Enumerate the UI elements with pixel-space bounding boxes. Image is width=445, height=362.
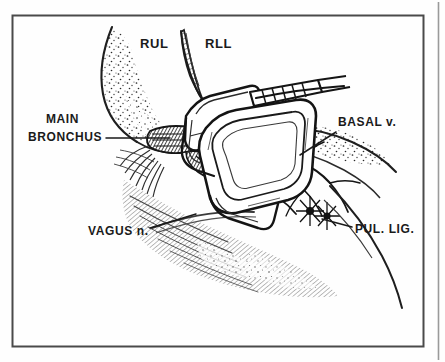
label-rll: RLL bbox=[205, 36, 232, 51]
label-main-bronchus-line2: BRONCHUS bbox=[28, 130, 102, 144]
figure-root: RUL RLL MAIN BRONCHUS BASAL v. VAGUS n. … bbox=[0, 0, 445, 362]
label-pul-lig: PUL. LIG. bbox=[355, 222, 414, 236]
figure-illustration: RUL RLL MAIN BRONCHUS BASAL v. VAGUS n. … bbox=[0, 0, 445, 362]
label-rul: RUL bbox=[140, 36, 169, 51]
label-basal-v: BASAL v. bbox=[338, 115, 396, 129]
label-main-bronchus-line1: MAIN bbox=[46, 112, 79, 126]
label-vagus-n: VAGUS n. bbox=[88, 224, 149, 238]
